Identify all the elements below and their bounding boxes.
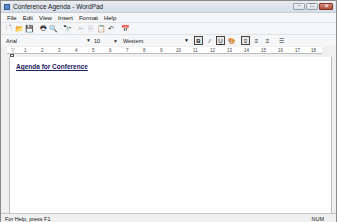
ruler-label: 3 [58, 48, 61, 53]
script-value: Western [122, 38, 143, 44]
undo-icon[interactable]: ↶ [107, 25, 115, 33]
bold-button[interactable]: B [194, 36, 203, 45]
bullets-button[interactable]: ☰ [277, 36, 286, 45]
status-bar: For Help, press F1 NUM [1, 213, 336, 222]
ruler-label: 14 [244, 48, 249, 53]
save-icon[interactable]: 💾 [25, 25, 33, 33]
document-heading[interactable]: Agenda for Conference [16, 63, 88, 70]
menu-edit[interactable]: Edit [20, 15, 36, 21]
minimize-icon: – [294, 2, 304, 8]
ruler-label: 12 [210, 48, 215, 53]
menu-file[interactable]: File [4, 15, 20, 21]
ruler-label: 4 [75, 48, 78, 53]
menu-format[interactable]: Format [76, 15, 101, 21]
font-name-value: Arial [5, 38, 17, 44]
italic-button[interactable]: / [205, 36, 214, 45]
num-lock-indicator: NUM [311, 216, 324, 222]
title-bar[interactable]: Conference Agenda - WordPad – □ ✕ [1, 1, 336, 13]
print-icon[interactable]: 🖶 [39, 25, 47, 33]
insert-date-icon[interactable]: 📅 [121, 25, 129, 33]
status-help-text: For Help, press F1 [5, 216, 51, 222]
ruler-label: 6 [109, 48, 112, 53]
ruler[interactable]: ▽ 1 2 3 4 5 6 7 8 9 10 11 12 13 14 15 16… [7, 47, 322, 54]
menu-insert[interactable]: Insert [55, 15, 76, 21]
font-size-combo[interactable]: 10 [93, 37, 113, 45]
ruler-label: 1 [24, 48, 27, 53]
open-icon[interactable]: 📂 [15, 25, 23, 33]
ruler-label: 17 [295, 48, 300, 53]
document-area[interactable]: Agenda for Conference [9, 57, 332, 213]
find-icon[interactable]: 🔭 [63, 25, 71, 33]
wordpad-app-icon[interactable] [4, 4, 10, 10]
ruler-label: 10 [176, 48, 181, 53]
copy-icon[interactable]: ⎘ [87, 25, 95, 33]
ruler-label: 7 [126, 48, 129, 53]
minimize-button[interactable]: – [293, 3, 305, 10]
ruler-label: 2 [41, 48, 44, 53]
ruler-label: 5 [92, 48, 95, 53]
menu-view[interactable]: View [36, 15, 55, 21]
menu-bar: File Edit View Insert Format Help [1, 13, 336, 22]
underline-button[interactable]: U [216, 36, 225, 45]
ruler-label: 8 [143, 48, 146, 53]
chevron-down-icon[interactable]: ▼ [86, 37, 91, 43]
ruler-label: 18 [311, 48, 316, 53]
cut-icon[interactable]: ✂ [77, 25, 85, 33]
font-size-value: 10 [93, 38, 100, 44]
ruler-label: 9 [160, 48, 163, 53]
standard-toolbar: 🗋 📂 💾 🖶 🔍 🔭 ✂ ⎘ 📋 ↶ 📅 [1, 22, 336, 34]
close-button[interactable]: ✕ [319, 3, 333, 10]
ruler-label: 16 [278, 48, 283, 53]
maximize-button[interactable]: □ [306, 3, 318, 10]
format-buttons: B / U 🎨 ≡ ≡ ≡ ☰ [194, 36, 288, 45]
align-left-button[interactable]: ≡ [241, 36, 250, 45]
menu-help[interactable]: Help [101, 15, 119, 21]
align-right-button[interactable]: ≡ [263, 36, 272, 45]
format-toolbar: Arial ▼ 10 ▼ Western ▼ B / U 🎨 ≡ ≡ ≡ ☰ [1, 34, 336, 46]
paste-icon[interactable]: 📋 [97, 25, 105, 33]
wordpad-window: Conference Agenda - WordPad – □ ✕ File E… [0, 0, 337, 222]
align-center-button[interactable]: ≡ [252, 36, 261, 45]
maximize-icon: □ [307, 2, 317, 8]
chevron-down-icon[interactable]: ▼ [113, 38, 118, 44]
font-name-combo[interactable]: Arial ▼ [5, 37, 93, 45]
new-icon[interactable]: 🗋 [5, 25, 13, 33]
first-line-indent-marker[interactable]: ▽ [11, 47, 15, 53]
chevron-down-icon[interactable]: ▼ [184, 37, 189, 43]
ruler-label: 11 [193, 48, 198, 53]
script-combo[interactable]: ▼ Western [113, 37, 193, 45]
window-controls: – □ ✕ [293, 3, 333, 10]
color-icon[interactable]: 🎨 [227, 36, 236, 45]
ruler-label: 13 [227, 48, 232, 53]
close-icon: ✕ [320, 2, 332, 9]
ruler-label: 15 [261, 48, 266, 53]
print-preview-icon[interactable]: 🔍 [49, 25, 57, 33]
window-title: Conference Agenda - WordPad [13, 3, 103, 10]
